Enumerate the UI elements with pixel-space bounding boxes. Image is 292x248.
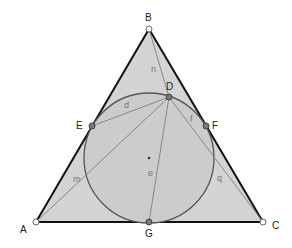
label-segment-m: m	[73, 174, 81, 184]
geometry-diagram: A B C D E F G n d f m q e	[0, 0, 292, 248]
incenter-dot	[148, 157, 151, 160]
label-e: E	[76, 120, 83, 131]
point-b[interactable]	[146, 26, 152, 32]
label-b: B	[145, 12, 152, 23]
point-g[interactable]	[146, 219, 152, 225]
point-e[interactable]	[89, 123, 95, 129]
label-g: G	[145, 228, 153, 239]
label-d: D	[166, 81, 173, 92]
point-d[interactable]	[166, 94, 172, 100]
label-center-e: e	[148, 168, 153, 178]
point-a[interactable]	[33, 219, 39, 225]
label-a: A	[20, 224, 27, 235]
point-f[interactable]	[203, 123, 209, 129]
label-f: F	[212, 120, 218, 131]
label-segment-n: n	[151, 64, 156, 74]
label-c: C	[272, 220, 279, 231]
label-segment-q: q	[217, 173, 222, 183]
point-c[interactable]	[260, 219, 266, 225]
label-segment-d: d	[124, 100, 129, 110]
